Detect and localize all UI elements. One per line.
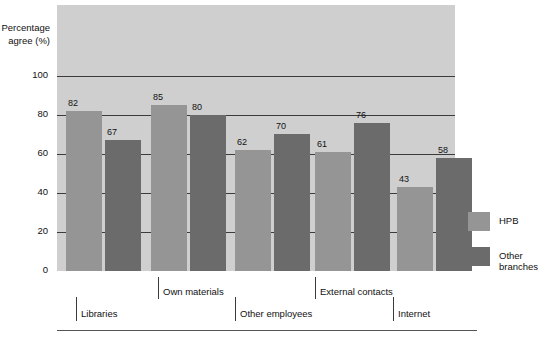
bar-other-own-materials[interactable] xyxy=(190,115,226,271)
legend-label-other-branches: Other branches xyxy=(499,250,538,272)
cat-label-internet: Internet xyxy=(398,308,430,319)
gridline-100 xyxy=(57,76,455,77)
legend-swatch-hpb-icon xyxy=(468,212,490,231)
bar-hpb-libraries[interactable] xyxy=(66,111,102,271)
y-axis-title: Percentage agree (%) xyxy=(0,22,50,47)
bar-value-hpb-own-materials: 85 xyxy=(153,92,163,102)
bar-hpb-external-contacts[interactable] xyxy=(315,152,351,271)
y-tick-label-60: 60 xyxy=(8,147,48,158)
bar-value-other-libraries: 67 xyxy=(107,127,117,137)
bar-other-libraries[interactable] xyxy=(105,140,141,271)
bar-value-other-own-materials: 80 xyxy=(192,102,202,112)
bar-chart: Percentage agree (%) 100 80 60 40 20 0 8… xyxy=(0,0,541,339)
bar-value-hpb-internet: 43 xyxy=(399,174,409,184)
y-tick-label-40: 40 xyxy=(8,186,48,197)
bar-value-hpb-external-contacts: 61 xyxy=(317,139,327,149)
legend-label-other-branches-line1: Other xyxy=(499,250,538,261)
legend-label-hpb: HPB xyxy=(499,215,519,226)
bottom-divider xyxy=(57,330,477,331)
y-tick-label-20: 20 xyxy=(8,225,48,236)
cat-label-external-contacts: External contacts xyxy=(320,286,393,297)
bar-value-other-internet: 58 xyxy=(438,145,448,155)
bar-hpb-own-materials[interactable] xyxy=(151,105,187,271)
cat-label-libraries: Libraries xyxy=(81,308,117,319)
bar-value-other-external-contacts: 76 xyxy=(356,110,366,120)
bar-other-other-employees[interactable] xyxy=(274,134,310,271)
bar-value-hpb-other-employees: 62 xyxy=(237,137,247,147)
y-axis-title-line2: agree (%) xyxy=(0,35,50,48)
cat-tick-external-contacts xyxy=(315,277,316,299)
bar-hpb-internet[interactable] xyxy=(397,187,433,271)
y-axis-title-line1: Percentage xyxy=(0,22,50,35)
y-tick-label-100: 100 xyxy=(8,69,48,80)
cat-tick-internet xyxy=(393,297,394,321)
legend-label-other-branches-line2: branches xyxy=(499,261,538,272)
cat-tick-own-materials xyxy=(158,277,159,299)
y-tick-label-80: 80 xyxy=(8,108,48,119)
cat-label-own-materials: Own materials xyxy=(163,286,224,297)
y-tick-label-0: 0 xyxy=(8,264,48,275)
plot-area: 82 67 85 80 62 70 61 76 43 58 xyxy=(57,5,455,271)
cat-tick-libraries xyxy=(76,297,77,321)
bar-value-hpb-libraries: 82 xyxy=(68,98,78,108)
bar-other-external-contacts[interactable] xyxy=(354,123,390,271)
gridline-80 xyxy=(57,115,455,116)
legend-swatch-other-branches-icon xyxy=(468,247,490,266)
bar-other-internet[interactable] xyxy=(436,158,472,271)
cat-tick-other-employees xyxy=(235,297,236,321)
bar-value-other-other-employees: 70 xyxy=(276,121,286,131)
bar-hpb-other-employees[interactable] xyxy=(235,150,271,271)
cat-label-other-employees: Other employees xyxy=(240,308,312,319)
